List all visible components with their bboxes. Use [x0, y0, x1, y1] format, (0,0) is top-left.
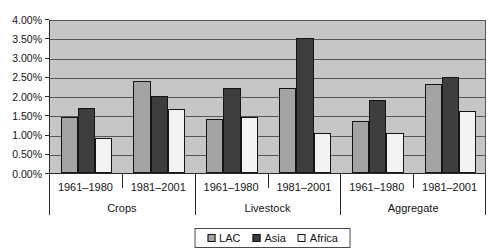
- legend: LACAsiaAfrica: [194, 228, 351, 248]
- bar-lac-crops-1961-1980: [61, 117, 78, 173]
- x-period-label: 1981–2001: [268, 181, 341, 193]
- bar-asia-aggregate-1961-1980: [369, 100, 386, 173]
- y-tick-label: 1.00%: [4, 129, 42, 141]
- gridline: [50, 155, 485, 156]
- bar-africa-aggregate-1961-1980: [386, 133, 403, 173]
- group-separator: [195, 174, 196, 215]
- x-period-label: 1981–2001: [122, 181, 195, 193]
- legend-label: Africa: [310, 232, 338, 244]
- bar-asia-livestock-1961-1980: [223, 88, 240, 173]
- y-tick-label: 2.50%: [4, 71, 42, 83]
- y-tick-label: 3.00%: [4, 52, 42, 64]
- y-tick-label: 4.00%: [4, 14, 42, 26]
- bar-africa-livestock-1961-1980: [241, 117, 258, 173]
- period-separator: [268, 174, 269, 188]
- gridline: [50, 59, 485, 60]
- x-period-label: 1961–1980: [340, 181, 413, 193]
- x-period-label: 1981–2001: [413, 181, 486, 193]
- x-period-label: 1961–1980: [195, 181, 268, 193]
- gridline: [50, 39, 485, 40]
- legend-label: LAC: [219, 232, 240, 244]
- y-tick-label: 0.50%: [4, 148, 42, 160]
- x-group-label: Crops: [49, 202, 195, 214]
- gridline: [50, 97, 485, 98]
- bar-lac-aggregate-1981-2001: [425, 84, 442, 173]
- group-separator: [485, 174, 486, 215]
- gridline: [50, 136, 485, 137]
- x-period-label: 1961–1980: [49, 181, 122, 193]
- y-tick-label: 0.00%: [4, 168, 42, 180]
- period-separator: [122, 174, 123, 188]
- bar-asia-crops-1981-2001: [151, 96, 168, 173]
- legend-swatch-asia: [252, 234, 260, 242]
- bar-lac-livestock-1981-2001: [279, 88, 296, 173]
- y-tick-label: 2.00%: [4, 91, 42, 103]
- bar-africa-crops-1961-1980: [95, 138, 112, 173]
- legend-label: Asia: [264, 232, 285, 244]
- legend-item-asia: Asia: [252, 232, 285, 244]
- bar-lac-livestock-1961-1980: [206, 119, 223, 173]
- gridline: [50, 78, 485, 79]
- legend-swatch-africa: [298, 234, 306, 242]
- gridline: [50, 116, 485, 117]
- legend-item-africa: Africa: [298, 232, 338, 244]
- legend-swatch-lac: [207, 234, 215, 242]
- period-separator: [413, 174, 414, 188]
- legend-item-lac: LAC: [207, 232, 240, 244]
- bar-asia-crops-1961-1980: [78, 108, 95, 173]
- bar-africa-crops-1981-2001: [168, 109, 185, 173]
- bar-lac-crops-1981-2001: [133, 81, 150, 173]
- bar-chart-figure: 0.00%0.50%1.00%1.50%2.00%2.50%3.00%3.50%…: [0, 0, 494, 252]
- x-group-label: Livestock: [195, 202, 341, 214]
- x-group-label: Aggregate: [340, 202, 486, 214]
- y-tick-label: 1.50%: [4, 110, 42, 122]
- bar-asia-aggregate-1981-2001: [442, 77, 459, 173]
- y-tick-label: 3.50%: [4, 33, 42, 45]
- group-separator: [49, 174, 50, 215]
- plot-area: [49, 20, 486, 174]
- bar-africa-livestock-1981-2001: [314, 133, 331, 173]
- bar-asia-livestock-1981-2001: [296, 38, 313, 173]
- bar-lac-aggregate-1961-1980: [352, 121, 369, 173]
- bar-africa-aggregate-1981-2001: [459, 111, 476, 173]
- group-separator: [340, 174, 341, 215]
